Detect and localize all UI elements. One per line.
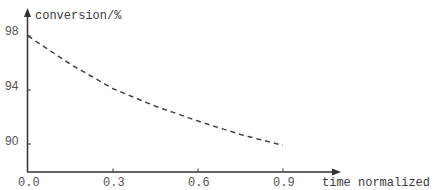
x-axis-arrow-icon (332, 169, 341, 176)
x-tick-label: 0.9 (273, 176, 295, 190)
conversion-dashed-line (28, 36, 283, 145)
y-tick-label: 98 (5, 24, 19, 38)
x-axis-label: time normalized (322, 176, 430, 190)
y-axis-arrow-icon (24, 8, 31, 17)
y-tick-label: 90 (5, 134, 19, 148)
y-tick-label: 94 (5, 79, 19, 93)
y-axis-label: conversion/% (35, 9, 122, 23)
x-tick-label: 0.6 (188, 176, 210, 190)
x-tick-label: 0.0 (18, 176, 40, 190)
conversion-chart: conversion/% time normalized 98 94 90 0.… (0, 0, 436, 190)
x-tick-label: 0.3 (103, 176, 125, 190)
